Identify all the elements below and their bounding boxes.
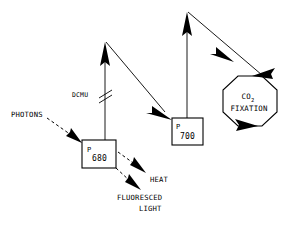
photons-arrowhead (66, 128, 82, 143)
co2-text: CO (242, 92, 252, 101)
p680-label-sub: 680 (92, 154, 107, 163)
dcmu-slash-1 (99, 90, 112, 98)
photosynthesis-z-scheme-diagram: P 680 P 700 (0, 0, 289, 226)
p680-excitation-arrow (100, 42, 110, 140)
p680-to-p700-arrow (106, 42, 172, 120)
photons-arrow (47, 118, 82, 143)
co2-fixation-node: CO2 FIXATION (223, 68, 277, 131)
dcmu-inhibition-mark (99, 90, 112, 103)
heat-label: HEAT (150, 175, 169, 184)
p700-excitation-arrow (182, 12, 192, 118)
fluoresced-light-label-line2: LIGHT (139, 204, 162, 213)
p700-to-co2-mid-arrowhead (210, 47, 234, 62)
p680-label-main: P (87, 146, 91, 154)
diagram-canvas: P 680 P 700 (0, 0, 289, 226)
p680-node: P 680 (82, 140, 116, 168)
p700-node: P 700 (172, 118, 203, 145)
p700-to-co2-shaft (188, 12, 262, 75)
p700-label-sub: 700 (180, 132, 195, 141)
p700-to-co2-fixation-arrow (188, 12, 262, 75)
dcmu-label: DCMU (72, 91, 88, 99)
fluoresced-light-label-line1: FLUORESCED (117, 193, 162, 202)
co2-fixation-line2: FIXATION (230, 104, 267, 113)
p680-to-p700-arrowhead (146, 106, 172, 120)
co2-subscript: 2 (251, 97, 254, 103)
dcmu-slash-2 (99, 95, 112, 103)
heat-arrowhead (130, 157, 146, 173)
fluoresced-light-arrowhead (125, 174, 141, 190)
heat-arrow (118, 152, 146, 173)
photons-label: PHOTONS (11, 110, 43, 119)
p700-label-main: P (176, 123, 180, 131)
fluoresced-light-arrow (116, 168, 141, 190)
p680-to-p700-shaft (106, 42, 165, 112)
